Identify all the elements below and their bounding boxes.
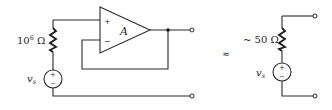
resistor-1meg — [50, 28, 56, 52]
terminal-top-left — [190, 28, 194, 32]
source-plus-right: + — [279, 64, 285, 72]
terminal-top-right — [313, 14, 317, 18]
source-label-left: vs — [27, 73, 37, 86]
wire-bottom-right — [282, 81, 313, 96]
source-minus-left: − — [50, 80, 56, 88]
source-label-right: vs — [256, 67, 266, 80]
output-node — [166, 28, 170, 32]
circuit-diagram: + − 106Ω vs + − A ≈ + − — [0, 0, 332, 110]
wire-bottom-left — [53, 88, 190, 96]
approx-symbol: ≈ — [222, 49, 230, 59]
resistor-value-left: 106Ω — [17, 34, 45, 46]
resistor-50ohm — [279, 28, 285, 51]
opamp-gain-label: A — [119, 25, 128, 38]
right-circuit: + − ~ 50 Ω vs — [243, 14, 317, 98]
source-minus-right: − — [279, 73, 285, 81]
left-circuit: + − 106Ω vs + − A — [17, 7, 194, 98]
resistor-value-right: ~ 50 Ω — [243, 34, 279, 45]
terminal-bottom-right — [313, 94, 317, 98]
opamp-minus-input: − — [104, 37, 111, 46]
opamp-plus-input: + — [104, 17, 111, 26]
source-plus-left: + — [50, 71, 56, 79]
terminal-bottom-left — [190, 94, 194, 98]
